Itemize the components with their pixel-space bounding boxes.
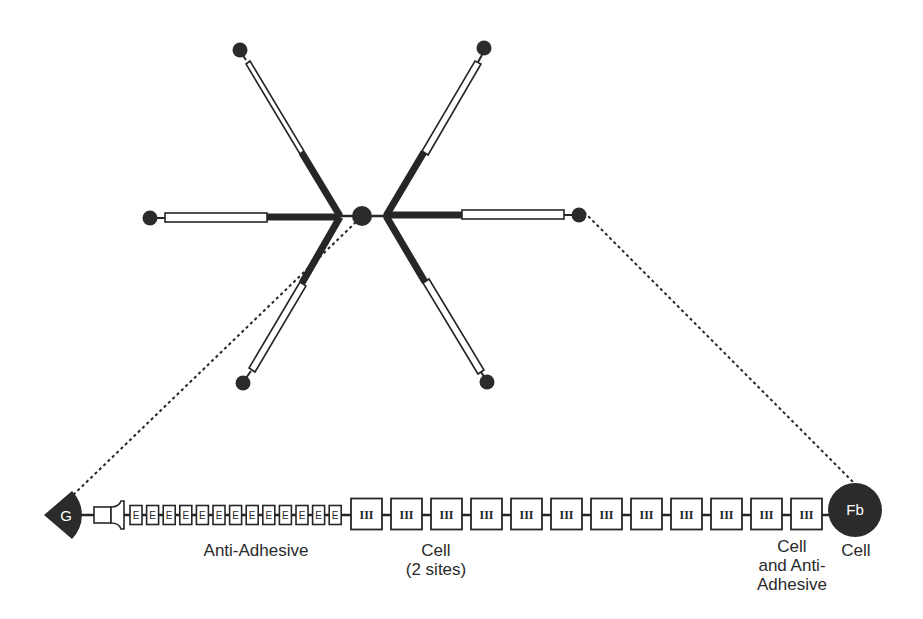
knob-lower-left-icon (236, 376, 251, 391)
domain-chain: G EEEEEEEEEEEEE IIIIIIIIIIIIIIIIIIIIIIII… (44, 483, 882, 539)
knob-lower-right-icon (480, 375, 495, 390)
egf-repeat-label: E (216, 510, 223, 521)
fn3-repeat-label: III (439, 508, 453, 522)
egf-repeat-label: E (282, 510, 289, 521)
fn3-repeat-label: III (639, 508, 653, 522)
fn3-repeat-label: III (399, 508, 413, 522)
egf-repeat-label: E (133, 510, 140, 521)
tenascin-diagram: G EEEEEEEEEEEEE IIIIIIIIIIIIIIIIIIIIIIII… (0, 0, 923, 619)
arm-lower-right (386, 216, 495, 390)
knob-upper-right-icon (477, 41, 492, 56)
arm-lower-left (236, 217, 341, 391)
egf-repeat-label: E (332, 510, 339, 521)
egf-repeat-label: E (149, 510, 156, 521)
g-domain-label: G (60, 507, 72, 524)
fb-domain: Fb (828, 483, 882, 537)
cell-label-line1: Cell (396, 541, 476, 560)
arm-upper-right (386, 41, 492, 217)
egf-repeat-label: E (299, 510, 306, 521)
fn3-repeat-label: III (359, 508, 373, 522)
hexabrachion (143, 41, 587, 391)
knob-left-icon (143, 211, 158, 226)
knob-upper-left-icon (233, 43, 248, 58)
fn3-repeat-label: III (799, 508, 813, 522)
egf-repeat-label: E (199, 510, 206, 521)
magnification-lines (70, 212, 856, 498)
arm-upper-left (233, 43, 341, 217)
fb-domain-label: Fb (846, 501, 864, 518)
cell-label-line2: (2 sites) (396, 560, 476, 579)
knob-right-icon (572, 208, 587, 223)
fn3-repeat-label: III (559, 508, 573, 522)
fn3-repeat-label: III (519, 508, 533, 522)
anti-adhesive-label: Anti-Adhesive (196, 541, 316, 560)
egf-repeat-label: E (265, 510, 272, 521)
g-domain: G (44, 491, 82, 539)
egf-repeat-label: E (315, 510, 322, 521)
coiled-coil-segment (94, 501, 124, 529)
fn3-repeat-label: III (479, 508, 493, 522)
egf-repeat-label: E (249, 510, 256, 521)
cell-label: Cell (2 sites) (396, 541, 476, 579)
egf-repeat-label: E (166, 510, 173, 521)
arm-left (143, 211, 341, 226)
fn3-repeat-label: III (719, 508, 733, 522)
fn3-repeat-label: III (759, 508, 773, 522)
fn3-repeat-label: III (679, 508, 693, 522)
cell-anti-line3: Adhesive (740, 575, 844, 594)
fn3-repeat-label: III (599, 508, 613, 522)
egf-repeat-label: E (182, 510, 189, 521)
fb-cell-label: Cell (828, 541, 884, 560)
egf-repeat-label: E (232, 510, 239, 521)
arm-right (386, 208, 587, 223)
